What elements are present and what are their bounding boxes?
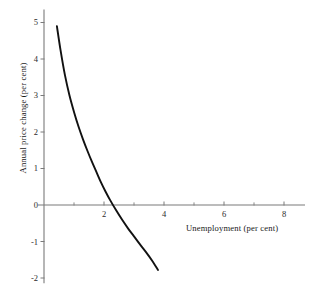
series-line-phillips-curve: [57, 26, 158, 270]
y-tick-label: -1: [20, 237, 38, 246]
x-axis-title: Unemployment (per cent): [186, 223, 278, 233]
y-axis-title: Annual price change (per cent): [18, 48, 28, 188]
data-series-group: [57, 26, 158, 270]
axes-group: [38, 10, 305, 284]
x-tick-label: 6: [222, 210, 226, 219]
x-tick-label: 2: [102, 210, 106, 219]
chart-plot-area: [0, 0, 316, 299]
x-tick-label: 8: [282, 210, 286, 219]
y-tick-label: 5: [24, 18, 38, 27]
phillips-curve-figure: 5 4 3 2 1 0 -1 -2 2 4 6 8 Unemployment (…: [0, 0, 316, 299]
x-tick-label: 4: [162, 210, 166, 219]
axis-ticks: [41, 23, 285, 279]
y-tick-label: -2: [20, 274, 38, 283]
y-tick-label: 0: [24, 201, 38, 210]
